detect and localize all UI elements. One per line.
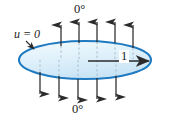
diagram-canvas — [0, 0, 171, 121]
leader-line-icon — [26, 41, 34, 49]
unit-disk-heat-diagram: 0° 0° u = 0 1 — [0, 0, 171, 121]
bottom-boundary-temperature-label: 0° — [72, 103, 83, 116]
boundary-condition-label: u = 0 — [14, 28, 40, 40]
top-boundary-temperature-label: 0° — [74, 3, 85, 16]
radius-length-label: 1 — [119, 50, 129, 63]
